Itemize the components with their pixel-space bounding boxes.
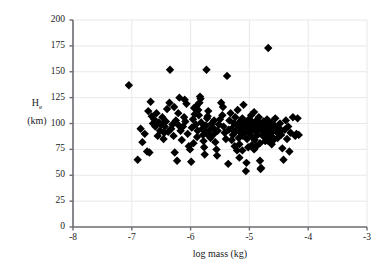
y-tick-label: 150 <box>37 66 65 76</box>
y-tick-label: 75 <box>37 143 65 153</box>
x-axis-title: log mass (kg) <box>73 248 367 259</box>
data-points <box>125 44 303 176</box>
x-tick-label: -3 <box>355 232 379 242</box>
x-tick-label: -6 <box>179 232 203 242</box>
scatter-plot-figure: 0255075100125150175200 -8-7-6-5-4-3 He (… <box>0 0 386 269</box>
y-axis-title-main: H <box>32 97 39 108</box>
x-tick-label: -8 <box>61 232 85 242</box>
x-tick-label: -5 <box>237 232 261 242</box>
x-tick-label: -4 <box>296 232 320 242</box>
y-tick-label: 0 <box>37 221 65 231</box>
y-tick-label: 50 <box>37 169 65 179</box>
y-tick-label: 200 <box>37 14 65 24</box>
y-tick-label: 25 <box>37 195 65 205</box>
y-axis-title-subscript: e <box>39 103 42 111</box>
x-tick-label: -7 <box>120 232 144 242</box>
y-tick-label: 175 <box>37 40 65 50</box>
y-axis-title: He (km) <box>10 96 64 128</box>
y-axis-units: (km) <box>10 114 64 128</box>
